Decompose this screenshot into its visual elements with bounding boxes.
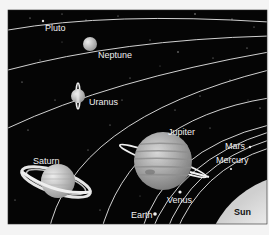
mercury-planet — [230, 168, 232, 170]
mars-planet — [249, 146, 251, 148]
neptune-planet — [83, 37, 97, 51]
label-earth: Earth — [131, 210, 153, 220]
label-mercury: Mercury — [216, 155, 249, 165]
label-saturn: Saturn — [33, 156, 60, 166]
solar-system-diagram — [0, 0, 269, 235]
label-venus: Venus — [167, 195, 192, 205]
pluto-planet — [42, 20, 44, 22]
label-jupiter: Jupiter — [168, 127, 195, 137]
label-uranus: Uranus — [89, 97, 118, 107]
label-mars: Mars — [225, 141, 245, 151]
earth-planet — [153, 212, 157, 216]
label-neptune: Neptune — [98, 50, 132, 60]
venus-planet — [178, 190, 181, 193]
label-pluto: Pluto — [45, 23, 66, 33]
label-sun: Sun — [234, 207, 251, 217]
